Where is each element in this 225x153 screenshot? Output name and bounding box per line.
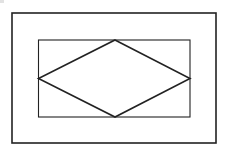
inner-rectangle [39,40,191,117]
outer-rectangle [12,13,216,143]
rhombus [39,40,191,117]
diagram [0,0,225,153]
